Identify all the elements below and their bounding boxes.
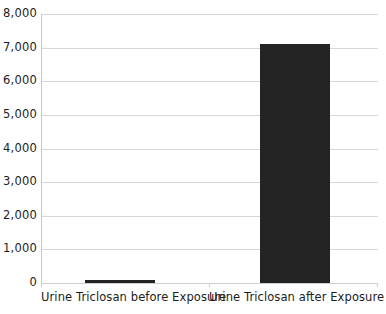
x-axis-label-urine-triclosan-before-exposure: Urine Triclosan before Exposure: [41, 290, 209, 304]
plot-area: [41, 14, 378, 283]
y-axis-line: [41, 14, 42, 284]
x-tick-mark-middle: [209, 283, 210, 287]
y-tick-label-0: 0: [29, 277, 37, 289]
bar-urine-triclosan-before-exposure: [85, 280, 155, 283]
y-tick-label-4000: 4,000: [3, 143, 37, 155]
y-tick-label-6000: 6,000: [3, 75, 37, 87]
y-tick-label-3000: 3,000: [3, 176, 37, 188]
bar-chart: 8,000 7,000 6,000 5,000 4,000 3,000 2,00…: [0, 0, 386, 314]
y-tick-label-1000: 1,000: [3, 244, 37, 256]
bar-urine-triclosan-after-exposure: [260, 44, 330, 283]
y-tick-label-5000: 5,000: [3, 109, 37, 121]
x-tick-mark-right: [377, 283, 378, 287]
x-tick-mark-left: [41, 283, 42, 287]
y-tick-label-8000: 8,000: [3, 8, 37, 20]
y-tick-label-2000: 2,000: [3, 210, 37, 222]
y-tick-label-7000: 7,000: [3, 42, 37, 54]
gridline-8000: [41, 14, 378, 15]
x-axis-label-urine-triclosan-after-exposure: Urine Triclosan after Exposure: [209, 290, 378, 304]
